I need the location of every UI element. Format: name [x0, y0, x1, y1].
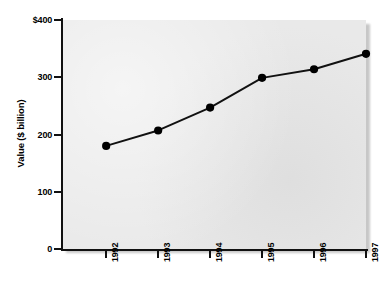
y-tick-label: 300	[38, 72, 52, 82]
y-tick-mark	[54, 248, 62, 250]
x-tick-mark	[313, 251, 315, 258]
x-tick-mark	[365, 251, 367, 258]
x-tick-label: 1996	[318, 243, 328, 262]
x-tick-mark	[157, 251, 159, 258]
y-tick-mark	[54, 134, 62, 136]
x-tick-mark	[209, 251, 211, 258]
y-tick-mark	[54, 19, 62, 21]
x-tick-label: 1994	[214, 243, 224, 262]
y-tick-label: 200	[38, 130, 52, 140]
line-chart: $4003002001000 199219931994199519961997 …	[0, 0, 392, 293]
y-tick-mark	[54, 191, 62, 193]
x-tick-label: 1995	[266, 243, 276, 262]
y-axis-title: Value ($ billion)	[15, 84, 26, 184]
x-tick-label: 1997	[370, 243, 380, 262]
y-tick-label: 0	[47, 244, 52, 254]
x-tick-mark	[261, 251, 263, 258]
x-tick-mark	[105, 251, 107, 258]
y-tick-mark	[54, 76, 62, 78]
y-tick-label: 100	[38, 187, 52, 197]
y-tick-label: $400	[33, 15, 52, 25]
plot-area	[62, 20, 366, 249]
x-tick-label: 1992	[110, 243, 120, 262]
x-tick-label: 1993	[162, 243, 172, 262]
